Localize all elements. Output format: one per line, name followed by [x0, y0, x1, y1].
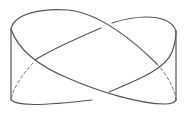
left-descending-band-line: [11, 29, 176, 104]
upper-left-arc-hidden-line: [157, 64, 176, 100]
twisted-band-figure: [0, 0, 188, 116]
bottom-left-arc-line: [11, 100, 92, 105]
upper-right-arc-line: [112, 17, 176, 31]
left-hidden-arc-line: [11, 63, 33, 100]
rising-band-line: [109, 31, 176, 92]
diagram-canvas: Twisted band diagram: [0, 0, 188, 116]
middle-descending-band-line: [35, 28, 101, 60]
